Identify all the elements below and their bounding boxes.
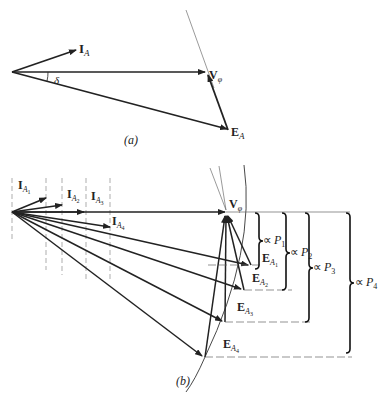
current-label-3: IA3 <box>91 189 104 206</box>
current-label-4: IA4 <box>112 214 125 231</box>
emf-phasor-a <box>12 72 227 129</box>
caption-b: (b) <box>176 374 190 388</box>
jxs-phasor-2 <box>227 216 244 290</box>
caption-a: (a) <box>124 133 138 147</box>
phasor-diagram: IA δ Vφ EA (a) <box>0 0 388 397</box>
figure-b: IA1 IA2 IA3 IA4 Vφ EA1 EA2 EA3 EA4 ∝P1 ∝… <box>12 165 377 392</box>
delta-label: δ <box>54 74 60 86</box>
power-label-4: ∝P4 <box>355 275 377 291</box>
jxs-phasor-3 <box>225 216 226 322</box>
power-label-1: ∝P1 <box>263 233 285 249</box>
emf-label-2: EA2 <box>252 271 268 288</box>
emf-label-3: EA3 <box>237 300 253 317</box>
current-label-a: IA <box>79 41 90 58</box>
emf-label-1: EA1 <box>262 251 278 268</box>
emf-label-a: EA <box>231 125 245 141</box>
brace-p2 <box>282 213 290 290</box>
voltage-label-b: Vφ <box>229 197 243 213</box>
current-label-2: IA2 <box>67 187 80 204</box>
current-phasor-a <box>12 50 76 72</box>
locus-line-b1 <box>210 168 226 210</box>
emf-phasor-2 <box>12 212 241 289</box>
brace-p3 <box>305 213 313 322</box>
power-label-3: ∝P3 <box>313 260 335 276</box>
delta-arc <box>47 72 48 81</box>
voltage-label-a: Vφ <box>209 68 223 84</box>
emf-label-4: EA4 <box>223 337 239 354</box>
current-label-1: IA1 <box>18 178 31 195</box>
locus-line-b2 <box>219 166 226 210</box>
figure-a: IA δ Vφ EA (a) <box>12 10 245 147</box>
brace-p4 <box>346 213 354 353</box>
